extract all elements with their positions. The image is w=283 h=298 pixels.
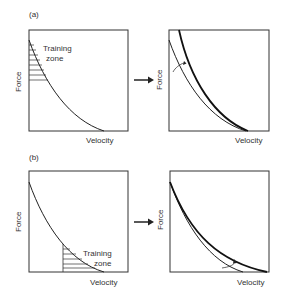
training-zone-label: Training: [43, 44, 72, 53]
chart-b-left: Training zone Velocity Force: [14, 171, 128, 287]
original-curve: [169, 40, 246, 131]
improved-curve: [170, 182, 267, 272]
y-axis-label: Force: [155, 69, 164, 90]
original-curve: [170, 182, 243, 272]
x-axis-label: Velocity: [90, 278, 118, 287]
chart-b-right: Velocity Force: [156, 171, 269, 287]
y-axis-label: Force: [14, 211, 23, 232]
panel-a-label: (a): [29, 10, 39, 19]
force-velocity-curve: [29, 182, 104, 272]
force-velocity-diagram: (a) Training zone Velocity Force Velo: [0, 0, 283, 298]
chart-a-right: Velocity Force: [155, 30, 269, 145]
chart-frame: [170, 171, 269, 272]
panel-b-label: (b): [29, 153, 39, 162]
training-zone-label: Training: [83, 249, 112, 258]
x-axis-label: Velocity: [86, 136, 114, 145]
x-axis-label: Velocity: [235, 136, 263, 145]
y-axis-label: Force: [156, 209, 165, 230]
y-axis-label: Force: [14, 71, 23, 92]
force-velocity-curve: [29, 40, 104, 131]
improved-curve: [179, 30, 248, 131]
shift-arrowhead: [183, 61, 187, 65]
right-arrow-icon: [134, 77, 154, 84]
training-zone-label-2: zone: [46, 54, 64, 63]
chart-frame: [169, 30, 269, 131]
chart-frame: [29, 171, 128, 272]
right-arrow-icon: [134, 219, 154, 226]
x-axis-label: Velocity: [237, 278, 265, 287]
chart-a-left: Training zone Velocity Force: [14, 30, 128, 145]
training-zone-label-2: zone: [94, 259, 112, 268]
